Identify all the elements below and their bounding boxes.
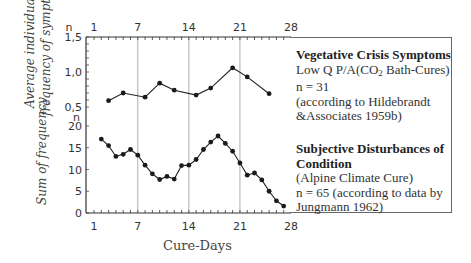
data-point — [121, 152, 126, 157]
top-axis-tick-label: 1 — [91, 21, 98, 34]
data-point — [238, 161, 243, 166]
lower-y-tick-label: 5 — [75, 185, 82, 198]
data-point — [252, 171, 257, 176]
legend-lower: Subjective Disturbances of Condition (Al… — [296, 142, 444, 215]
data-point — [245, 173, 250, 178]
data-point — [143, 95, 148, 100]
data-point — [216, 134, 221, 139]
data-point — [172, 177, 177, 182]
upper-y-axis-title-line1: Average individual — [23, 0, 37, 109]
x-axis-title: Cure-Days — [163, 238, 232, 253]
data-point — [128, 147, 133, 152]
data-point — [172, 88, 177, 93]
data-point — [208, 86, 213, 91]
data-point — [194, 157, 199, 162]
top-axis-tick-label: 7 — [134, 21, 141, 34]
data-point — [157, 177, 162, 182]
data-point — [106, 98, 111, 103]
data-point — [274, 198, 279, 203]
data-point — [201, 147, 206, 152]
series-subjective-disturbances — [99, 134, 286, 209]
bottom-axis-tick-label: 28 — [284, 220, 298, 233]
data-point — [230, 65, 235, 70]
lower-y-tick-label: 10 — [68, 164, 82, 177]
legend-upper-source-1: (according to Hildebrandt — [296, 95, 451, 110]
data-point — [179, 163, 184, 168]
legend-lower-n: n = 65 (according to data by — [296, 186, 444, 201]
data-point — [99, 137, 104, 142]
data-point — [208, 140, 213, 145]
legend-lower-title-1: Subjective Disturbances of — [296, 142, 444, 157]
data-point — [194, 93, 199, 98]
bottom-axis-tick-label: 7 — [134, 220, 141, 233]
lower-y-axis-title: Sum of frequency — [35, 97, 49, 205]
data-point — [267, 189, 272, 194]
data-point — [267, 91, 272, 96]
data-point — [165, 174, 170, 179]
data-point — [259, 178, 264, 183]
vertical-gridlines — [138, 37, 240, 213]
data-point — [143, 163, 148, 168]
legend-upper-source-2: &Associates 1959b) — [296, 109, 451, 124]
lower-y-tick-label: 15 — [68, 142, 82, 155]
bottom-axis-tick-label: 1 — [91, 220, 98, 233]
data-point — [121, 91, 126, 96]
legend-lower-method: (Alpine Climate Cure) — [296, 171, 444, 186]
legend-upper-method: Low Q P/A(CO2 Bath-Cures) — [296, 63, 451, 81]
lower-y-tick-label: 0 — [75, 207, 82, 220]
legend-upper-n: n = 31 — [296, 80, 451, 95]
bottom-axis-tick-label: 14 — [182, 220, 196, 233]
upper-y-tick-label: 1,5 — [65, 31, 83, 44]
legend-upper-title: Vegetative Crisis Symptoms — [296, 48, 451, 63]
top-axis-tick-label: 28 — [284, 21, 298, 34]
data-point — [230, 149, 235, 154]
data-point — [135, 153, 140, 158]
legend-lower-source: Jungmann 1962) — [296, 200, 444, 215]
data-point — [186, 163, 191, 168]
upper-y-tick-label: 1,0 — [65, 66, 83, 79]
lower-y-tick-label: 20 — [68, 120, 82, 133]
data-point — [157, 81, 162, 86]
data-point — [106, 143, 111, 148]
legend-upper: Vegetative Crisis Symptoms Low Q P/A(CO2… — [296, 48, 451, 124]
data-point — [113, 154, 118, 159]
top-axis-tick-label: 21 — [233, 21, 247, 34]
legend-lower-title-2: Condition — [296, 157, 444, 172]
data-point — [281, 204, 286, 209]
bottom-axis-tick-label: 21 — [233, 220, 247, 233]
tick-labels: n17142128171421281,51,00,5n20151050 — [65, 21, 299, 233]
data-point — [245, 75, 250, 80]
top-axis-tick-label: 14 — [182, 21, 196, 34]
data-point — [150, 171, 155, 176]
data-point — [223, 141, 228, 146]
